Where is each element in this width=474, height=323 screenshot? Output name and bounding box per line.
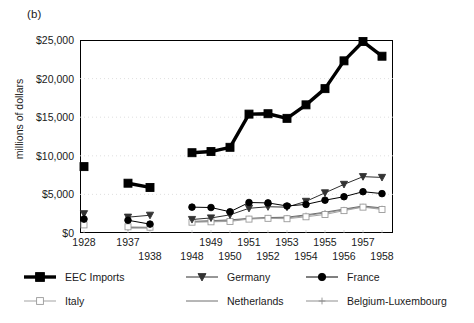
chart-legend: EEC ImportsGermanyFranceItalyNetherlands… [22,270,462,316]
x-tick-label: 1952 [256,250,279,262]
legend-swatch-filled-circle-icon [304,270,340,284]
legend-marker [37,298,44,305]
legend-item-eec-imports[interactable]: EEC Imports [22,270,125,284]
x-tick-label: 1937 [116,236,139,248]
legend-label: Germany [227,271,270,283]
x-tick-label: 1953 [275,236,298,248]
x-tick-label: 1950 [218,250,241,262]
x-tick-label: 1928 [72,236,95,248]
legend-label: Netherlands [227,295,284,307]
legend-swatch-none-icon [184,294,220,308]
x-tick-label: 1948 [180,250,203,262]
legend-swatch-filled-triangle-down-icon [184,270,220,284]
legend-marker [319,298,326,305]
x-tick-label: 1956 [332,250,355,262]
legend-item-netherlands[interactable]: Netherlands [184,294,284,308]
x-tick-label: 1954 [294,250,317,262]
legend-label: EEC Imports [65,271,125,283]
figure-panel-b: (b) millions of dollars $0$5,000$10,000$… [0,0,474,323]
legend-item-belgium-luxembourg[interactable]: Belgium-Luxembourg [304,294,447,308]
legend-item-france[interactable]: France [304,270,380,284]
x-tick-label: 1957 [351,236,374,248]
legend-swatch-filled-square-icon [22,270,58,284]
legend-label: France [347,271,380,283]
legend-swatch-open-square-icon [22,294,58,308]
legend-label: Belgium-Luxembourg [347,295,447,307]
x-tick-label: 1938 [138,250,161,262]
x-tick-label: 1949 [199,236,222,248]
legend-marker [36,273,45,282]
legend-item-italy[interactable]: Italy [22,294,84,308]
legend-item-germany[interactable]: Germany [184,270,270,284]
x-tick-label: 1951 [237,236,260,248]
x-tick-label: 1955 [313,236,336,248]
legend-swatch-plus-icon [304,294,340,308]
legend-marker [318,273,325,280]
x-tick-label: 1958 [370,250,393,262]
legend-label: Italy [65,295,84,307]
